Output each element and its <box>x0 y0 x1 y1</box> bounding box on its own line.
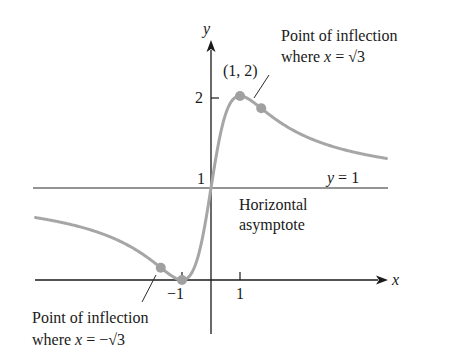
inflection-right-where: where <box>281 48 324 65</box>
asymptote-equation: y = 1 <box>327 169 359 187</box>
inflection-left-where: where <box>32 331 75 348</box>
minimum-point <box>177 275 187 285</box>
inflection-point-right <box>256 103 266 113</box>
inflection-left-label-line2: where x = −√3 <box>32 331 125 349</box>
inflection-right-rest: = √3 <box>331 48 365 65</box>
tick-label-x1: 1 <box>236 285 244 303</box>
maximum-point-label: (1, 2) <box>223 62 258 80</box>
inflection-left-rest: = −√3 <box>82 331 125 348</box>
tick-label-xm1: −1 <box>167 285 184 303</box>
asymptote-equation-rest: = 1 <box>334 169 359 186</box>
inflection-point-left <box>156 263 166 273</box>
inflection-left-label-line1: Point of inflection <box>32 309 148 327</box>
tick-label-y2: 2 <box>195 89 203 107</box>
maximum-point <box>235 91 245 101</box>
x-axis-label: x <box>392 271 399 289</box>
y-axis-label: y <box>203 20 210 38</box>
inflection-right-label-line1: Point of inflection <box>281 27 397 45</box>
asymptote-label-line2: asymptote <box>239 216 305 234</box>
tick-label-y1: 1 <box>197 170 205 188</box>
asymptote-label-line1: Horizontal <box>239 196 307 214</box>
inflection-right-label-line2: where x = √3 <box>281 48 365 66</box>
leader-line-left <box>142 275 156 302</box>
